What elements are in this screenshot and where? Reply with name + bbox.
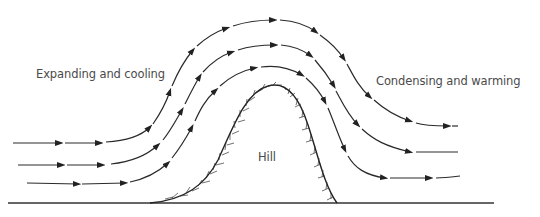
- hill-outline: [150, 85, 337, 203]
- label-expanding-and-cooling: Expanding and cooling: [36, 67, 165, 81]
- label-hill: Hill: [258, 150, 276, 164]
- streamline-middle: [18, 45, 458, 165]
- label-condensing-and-warming: Condensing and warming: [376, 74, 521, 88]
- airflow-diagram: [0, 0, 540, 217]
